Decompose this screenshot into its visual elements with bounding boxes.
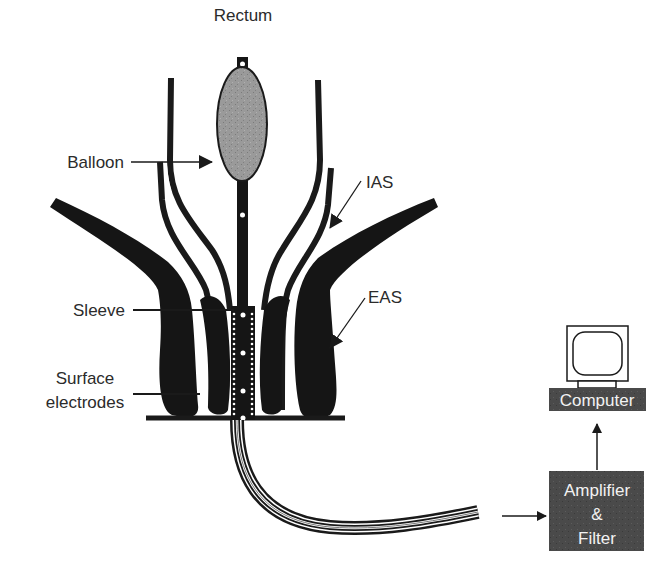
amplifier-filter-box: Amplifier & Filter [549,471,644,551]
ampersand-label: & [591,505,603,524]
label-sleeve: Sleeve [73,301,125,320]
label-balloon: Balloon [67,153,124,172]
computer-label: Computer [560,391,635,410]
label-eas: EAS [368,288,402,307]
label-surface: Surface [56,369,115,388]
filter-label: Filter [578,529,616,548]
eas-right [260,198,438,419]
computer-box: Computer [549,388,646,411]
label-ias: IAS [366,173,393,192]
anorectal-manometry-diagram: Rectum Balloon IAS EAS Sleeve Surface el… [0,0,671,577]
catheter-cable [237,420,478,528]
label-rectum: Rectum [214,6,273,25]
balloon [217,67,267,181]
monitor-icon [567,326,628,388]
sleeve-sensor [231,306,255,421]
ias-pointer [330,181,361,228]
amplifier-label: Amplifier [564,481,630,500]
label-electrodes: electrodes [46,393,124,412]
eas-pointer [330,298,365,348]
